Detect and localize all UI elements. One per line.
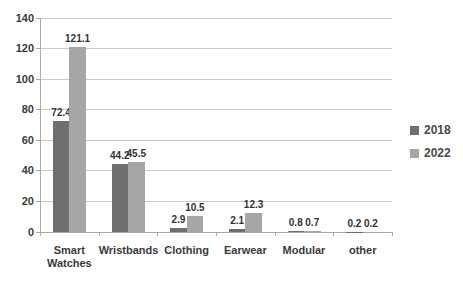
y-axis-line bbox=[40, 18, 41, 232]
data-label-2018-clothing: 2.9 bbox=[171, 214, 185, 226]
gridline-100 bbox=[40, 79, 392, 80]
y-axis-label-120: 120 bbox=[4, 43, 34, 54]
bar-2022-earwear bbox=[245, 213, 262, 232]
y-axis-label-0: 0 bbox=[4, 227, 34, 238]
gridline-60 bbox=[40, 140, 392, 141]
bar-2018-clothing bbox=[170, 228, 187, 232]
bar-2018-modular bbox=[288, 231, 305, 232]
x-axis-category-clothing: Clothing bbox=[157, 244, 216, 257]
data-label-2018-smart-watches: 72.4 bbox=[51, 107, 70, 119]
legend: 20182022 bbox=[410, 124, 451, 160]
x-axis-tick-3 bbox=[216, 232, 217, 236]
y-axis-label-40: 40 bbox=[4, 165, 34, 176]
y-axis-label-100: 100 bbox=[4, 74, 34, 85]
gridline-140 bbox=[40, 18, 392, 19]
bar-2018-smart-watches bbox=[53, 121, 70, 232]
data-label-2018-modular: 0.8 bbox=[289, 217, 303, 229]
gridline-40 bbox=[40, 170, 392, 171]
gridline-80 bbox=[40, 109, 392, 110]
data-label-2022-wristbands: 45.5 bbox=[127, 148, 146, 160]
legend-label-2018: 2018 bbox=[424, 124, 451, 137]
x-axis-tick-2 bbox=[157, 232, 158, 236]
data-label-2022-modular: 0.7 bbox=[305, 217, 319, 229]
bar-2022-smart-watches bbox=[69, 47, 86, 232]
data-label-2022-clothing: 10.5 bbox=[185, 202, 204, 214]
data-label-2022-earwear: 12.3 bbox=[244, 199, 263, 211]
bar-chart: 02040608010012014072.4121.1Smart Watches… bbox=[0, 0, 463, 285]
y-axis-label-20: 20 bbox=[4, 196, 34, 207]
x-axis-category-smart-watches: Smart Watches bbox=[40, 244, 99, 270]
x-axis-category-earwear: Earwear bbox=[216, 244, 275, 257]
y-axis-label-80: 80 bbox=[4, 104, 34, 115]
bar-2022-modular bbox=[304, 231, 321, 232]
legend-item-2018: 2018 bbox=[410, 124, 451, 137]
x-axis-tick-0 bbox=[40, 232, 41, 236]
legend-label-2022: 2022 bbox=[424, 147, 451, 160]
y-axis-label-140: 140 bbox=[4, 13, 34, 24]
data-label-2022-other: 0.2 bbox=[364, 218, 378, 230]
bar-2018-wristbands bbox=[112, 164, 129, 232]
x-axis-category-wristbands: Wristbands bbox=[99, 244, 158, 257]
bar-2018-earwear bbox=[229, 229, 246, 232]
legend-swatch-2022 bbox=[410, 149, 419, 158]
gridline-120 bbox=[40, 48, 392, 49]
x-axis-category-modular: Modular bbox=[275, 244, 334, 257]
data-label-2022-smart-watches: 121.1 bbox=[65, 33, 90, 45]
y-axis-label-60: 60 bbox=[4, 135, 34, 146]
bar-2022-wristbands bbox=[128, 162, 145, 232]
legend-swatch-2018 bbox=[410, 126, 419, 135]
gridline-20 bbox=[40, 201, 392, 202]
x-axis-tick-1 bbox=[99, 232, 100, 236]
data-label-2018-other: 0.2 bbox=[347, 218, 361, 230]
data-label-2018-earwear: 2.1 bbox=[230, 215, 244, 227]
x-axis-category-other: other bbox=[333, 244, 392, 257]
x-axis-tick-4 bbox=[275, 232, 276, 236]
x-axis-tick-5 bbox=[333, 232, 334, 236]
bar-2022-clothing bbox=[187, 216, 204, 232]
x-axis-tick-6 bbox=[392, 232, 393, 236]
legend-item-2022: 2022 bbox=[410, 147, 451, 160]
